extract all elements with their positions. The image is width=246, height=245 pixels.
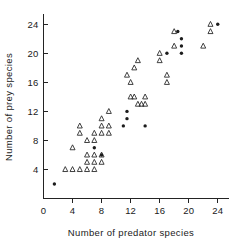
data-point-triangle — [85, 167, 90, 172]
data-point-triangle — [201, 43, 206, 48]
scatter-plot-figure: 04812162024 4812162024 Number of predato… — [0, 0, 246, 245]
data-point-triangle — [99, 130, 104, 135]
data-point-triangle — [99, 116, 104, 121]
x-tick-label: 20 — [183, 205, 194, 216]
data-point-triangle — [92, 167, 97, 172]
plot-canvas: 04812162024 4812162024 Number of predato… — [0, 0, 246, 245]
data-point-triangle — [157, 58, 162, 63]
data-point-dot — [53, 182, 56, 185]
data-point-triangle — [132, 65, 137, 70]
data-point-triangle — [124, 72, 129, 77]
data-point-triangle — [143, 101, 148, 106]
data-point-dot — [165, 52, 168, 55]
data-point-dot — [125, 117, 128, 120]
x-tick-label: 4 — [70, 205, 75, 216]
x-tick-label: 0 — [41, 205, 46, 216]
data-point-triangle — [99, 123, 104, 128]
data-point-triangle — [85, 152, 90, 157]
data-point-triangle — [143, 94, 148, 99]
data-point-triangle — [164, 72, 169, 77]
data-point-triangle — [157, 50, 162, 55]
data-point-triangle — [85, 159, 90, 164]
data-point-triangle — [77, 130, 82, 135]
data-markers — [53, 21, 220, 185]
x-axis-ticks: 04812162024 — [41, 199, 223, 216]
data-point-triangle — [99, 159, 104, 164]
data-point-triangle — [85, 138, 90, 143]
data-point-triangle — [77, 123, 82, 128]
data-point-dot — [180, 52, 183, 55]
data-point-triangle — [63, 167, 68, 172]
y-tick-label: 20 — [28, 48, 39, 59]
data-point-dot — [122, 124, 125, 127]
data-point-triangle — [92, 138, 97, 143]
y-axis-title: Number of prey species — [3, 53, 14, 161]
data-point-dot — [143, 124, 146, 127]
y-tick-label: 12 — [28, 106, 39, 117]
data-point-triangle — [172, 43, 177, 48]
data-point-triangle — [106, 130, 111, 135]
data-point-triangle — [77, 167, 82, 172]
data-point-triangle — [70, 145, 75, 150]
x-tick-label: 8 — [99, 205, 104, 216]
y-tick-label: 4 — [33, 164, 38, 175]
data-point-triangle — [135, 58, 140, 63]
data-point-triangle — [106, 123, 111, 128]
data-point-dot — [216, 23, 219, 26]
data-point-triangle — [70, 167, 75, 172]
y-axis-ticks: 4812162024 — [28, 19, 48, 175]
data-point-dot — [176, 30, 179, 33]
y-tick-label: 16 — [28, 77, 39, 88]
data-point-dot — [93, 146, 96, 149]
data-point-triangle — [106, 109, 111, 114]
x-axis-title: Number of predator species — [68, 227, 194, 238]
data-point-triangle — [128, 79, 133, 84]
data-point-triangle — [208, 29, 213, 34]
data-point-triangle — [208, 21, 213, 26]
x-tick-label: 12 — [125, 205, 136, 216]
x-tick-label: 16 — [154, 205, 165, 216]
x-tick-label: 24 — [212, 205, 223, 216]
y-tick-label: 24 — [28, 19, 39, 30]
data-point-dot — [125, 110, 128, 113]
data-point-triangle — [92, 130, 97, 135]
data-point-dot — [180, 37, 183, 40]
data-point-dot — [100, 153, 103, 156]
data-point-triangle — [164, 79, 169, 84]
data-point-triangle — [132, 94, 137, 99]
data-point-triangle — [92, 159, 97, 164]
data-point-triangle — [172, 29, 177, 34]
y-tick-label: 8 — [33, 135, 38, 146]
data-point-dot — [180, 44, 183, 47]
data-point-triangle — [92, 152, 97, 157]
